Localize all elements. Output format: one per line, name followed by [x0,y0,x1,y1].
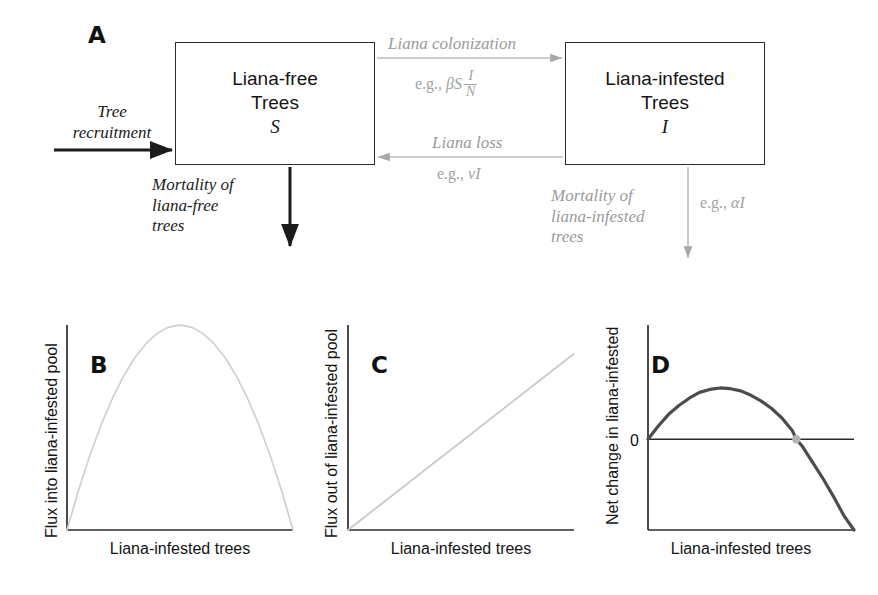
panel-plots [0,0,878,595]
panel-letter-c: C [371,352,388,378]
panel-d-curve [648,388,854,530]
panel-b-x-axis-label: Liana-infested trees [67,540,293,558]
panel-c-x-axis-label: Liana-infested trees [348,540,574,558]
panel-letter-b: B [90,352,108,378]
panel-c-y-axis-label: Flux out of liana-infested pool [323,329,341,538]
panel-letter-d: D [651,352,670,378]
panel-d-equilibrium-marker [792,435,800,443]
panel-d-x-axis-label: Liana-infested trees [628,540,854,558]
panel-d-zero-label: 0 [630,432,639,450]
panel-c-curve [348,354,574,530]
panel-b-y-axis-label: Flux into liana-infested pool [43,343,61,538]
panel-d-y-axis-label: Net change in liana-infested [604,327,622,525]
figure-root: A Liana-free Trees S Liana-infested Tree… [0,0,878,595]
